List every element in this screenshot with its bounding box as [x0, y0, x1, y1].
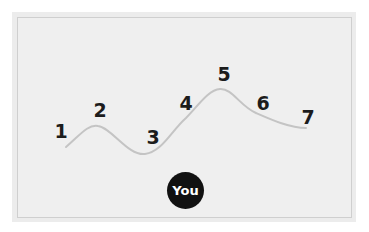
step-label-2: 2: [93, 101, 106, 120]
step-label-6: 6: [256, 94, 269, 113]
step-label-5: 5: [217, 65, 230, 84]
step-label-7: 7: [301, 108, 314, 127]
step-label-3: 3: [146, 128, 159, 147]
step-label-4: 4: [179, 94, 192, 113]
you-marker: You: [167, 172, 204, 209]
you-marker-label: You: [172, 183, 198, 198]
step-label-1: 1: [54, 122, 67, 141]
